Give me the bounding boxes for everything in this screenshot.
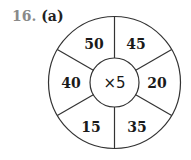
spoke-upper-left: [57, 50, 93, 71]
segment-top-left: 50: [84, 36, 104, 52]
segment-bottom-left: 15: [81, 119, 100, 135]
spoke-lower-left: [57, 95, 93, 116]
spoke-lower-right: [136, 95, 172, 116]
segment-left: 40: [61, 75, 81, 91]
segment-top-right: 45: [126, 36, 145, 52]
spoke-upper-right: [136, 50, 172, 71]
center-operation: ×5: [103, 74, 125, 92]
multiplication-wheel: ×5 50 45 20 35 15 40: [0, 0, 191, 160]
segment-bottom-right: 35: [127, 119, 146, 135]
segment-right: 20: [147, 75, 167, 91]
